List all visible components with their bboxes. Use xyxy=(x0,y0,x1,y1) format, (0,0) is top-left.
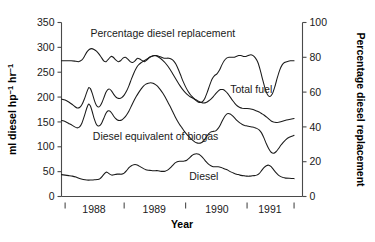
y-tick-label-left: 150 xyxy=(37,116,55,128)
x-tick-label: 1988 xyxy=(82,203,106,215)
y-tick-label-left: 50 xyxy=(43,165,55,177)
x-tick-label: 1991 xyxy=(258,203,282,215)
y-tick-label-right: 60 xyxy=(310,86,322,98)
y-tick-label-left: 200 xyxy=(37,91,55,103)
y-tick-label-left: 0 xyxy=(49,190,55,202)
y-tick-label-right: 20 xyxy=(310,155,322,167)
y-tick-label-right: 40 xyxy=(310,121,322,133)
y-axis-left-title: ml diesel hp−1 hr−1 xyxy=(6,64,19,155)
y-tick-label-left: 250 xyxy=(37,66,55,78)
x-tick-label: 1990 xyxy=(205,203,229,215)
series-label-percentage-diesel-replacement: Percentage diesel replacement xyxy=(90,27,235,39)
series-label-diesel: Diesel xyxy=(189,170,218,182)
labels-layer: Percentage diesel replacementTotal fuelD… xyxy=(90,27,272,181)
curve-diesel xyxy=(62,154,295,180)
curves-layer xyxy=(62,49,295,181)
y-tick-label-left: 100 xyxy=(37,140,55,152)
chart-figure: 0501001502002503003500204060801001988198… xyxy=(0,0,375,242)
x-tick-label: 1989 xyxy=(143,203,167,215)
chart-canvas: 0501001502002503003500204060801001988198… xyxy=(0,0,375,242)
series-label-total-fuel: Total fuel xyxy=(230,83,272,95)
axes-layer: 0501001502002503003500204060801001988198… xyxy=(6,16,368,229)
y-tick-label-left: 300 xyxy=(37,41,55,53)
y-tick-label-right: 0 xyxy=(310,190,316,202)
y-tick-label-right: 100 xyxy=(310,16,328,28)
y-tick-label-left: 350 xyxy=(37,16,55,28)
x-axis-title: Year xyxy=(171,218,193,230)
series-label-diesel-equivalent-of-biogas: Diesel equivalent of biogas xyxy=(93,130,219,142)
y-tick-label-right: 80 xyxy=(310,51,322,63)
y-axis-right-title: Percentage diesel replacement xyxy=(355,32,367,187)
